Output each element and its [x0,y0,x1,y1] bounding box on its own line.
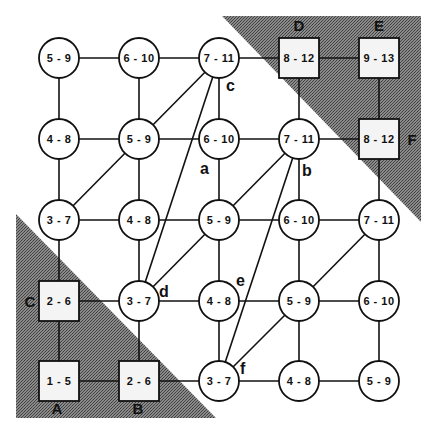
node-label: 9 - 13 [363,52,394,64]
circle-node-n23: 6 - 10 [199,119,239,159]
node-label: 3 - 7 [207,375,232,387]
circle-node-n34: 6 - 10 [279,200,319,240]
circle-node-n11: 5 - 9 [39,38,79,78]
circle-node-n24: 7 - 11 [279,119,319,159]
node-label: 6 - 10 [283,214,314,226]
circle-node-n13: 7 - 11 [199,38,239,78]
square-node-n52: 2 - 6 [119,361,159,401]
circle-node-n35: 7 - 11 [359,200,399,240]
node-label: 2 - 6 [47,295,72,307]
edge-label-d: d [159,283,169,300]
circle-node-n55: 5 - 9 [359,361,399,401]
edge-n13-n42 [139,58,219,301]
circle-node-n32: 4 - 8 [119,200,159,240]
node-label: 7 - 11 [204,52,235,64]
node-label: 4 - 8 [287,375,312,387]
edge-n24-n53 [219,139,299,381]
circle-node-n54: 4 - 8 [279,361,319,401]
circle-node-n53: 3 - 7 [199,361,239,401]
square-node-n15: 9 - 13 [359,38,399,78]
corner-label-B: B [133,400,144,417]
corner-label-D: D [294,17,305,34]
square-node-n41: 2 - 6 [39,281,79,321]
node-label: 7 - 11 [284,133,315,145]
circle-node-n43: 4 - 8 [199,281,239,321]
node-label: 3 - 7 [127,295,152,307]
node-label: 5 - 9 [367,375,392,387]
range-grid-diagram: 5 - 96 - 107 - 118 - 129 - 134 - 85 - 96… [0,0,437,433]
node-label: 5 - 9 [207,214,232,226]
square-node-n51: 1 - 5 [39,361,79,401]
circle-node-n33: 5 - 9 [199,200,239,240]
circle-node-n31: 3 - 7 [39,200,79,240]
node-label: 5 - 9 [287,295,312,307]
circle-node-n21: 4 - 8 [39,119,79,159]
edge-label-c: c [226,77,235,94]
edge-label-e: e [236,272,245,289]
edge-label-b: b [302,162,312,179]
edge-label-a: a [200,160,209,177]
node-label: 7 - 11 [364,214,395,226]
node-label: 8 - 12 [363,133,394,145]
corner-label-E: E [374,17,384,34]
corner-label-A: A [52,400,63,417]
node-label: 6 - 10 [363,295,394,307]
corner-label-C: C [25,293,36,310]
node-label: 2 - 6 [127,375,152,387]
square-node-n14: 8 - 12 [279,38,319,78]
node-label: 6 - 10 [203,133,234,145]
square-node-n25: 8 - 12 [359,119,399,159]
corner-label-F: F [407,131,416,148]
edge-label-f: f [240,360,246,377]
node-label: 1 - 5 [47,375,72,387]
circle-node-n12: 6 - 10 [119,38,159,78]
node-label: 8 - 12 [283,52,314,64]
circle-node-n45: 6 - 10 [359,281,399,321]
circle-node-n42: 3 - 7 [119,281,159,321]
node-label: 4 - 8 [127,214,152,226]
node-label: 5 - 9 [47,52,72,64]
circle-node-n44: 5 - 9 [279,281,319,321]
circle-node-n22: 5 - 9 [119,119,159,159]
node-label: 3 - 7 [47,214,72,226]
node-label: 6 - 10 [123,52,154,64]
node-label: 4 - 8 [47,133,72,145]
node-label: 5 - 9 [127,133,152,145]
node-label: 4 - 8 [207,295,232,307]
